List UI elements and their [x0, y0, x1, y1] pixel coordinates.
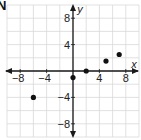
- coordinate-plane: −8−44884−4−8xy: [0, 0, 141, 140]
- x-tick-label: −4: [38, 72, 51, 84]
- data-point: [31, 95, 36, 100]
- y-tick-label: −4: [57, 91, 70, 103]
- data-point: [103, 59, 108, 64]
- data-point: [70, 75, 75, 80]
- y-tick-label: 8: [64, 12, 70, 24]
- y-tick-label: 4: [64, 39, 70, 51]
- axes: [5, 4, 139, 138]
- x-tick-label: 8: [123, 72, 129, 84]
- data-point: [117, 52, 122, 57]
- y-tick-label: −8: [57, 118, 70, 130]
- x-tick-label: 4: [96, 72, 102, 84]
- x-tick-label: −8: [12, 72, 25, 84]
- data-point: [84, 68, 89, 73]
- x-axis-label: x: [130, 58, 137, 70]
